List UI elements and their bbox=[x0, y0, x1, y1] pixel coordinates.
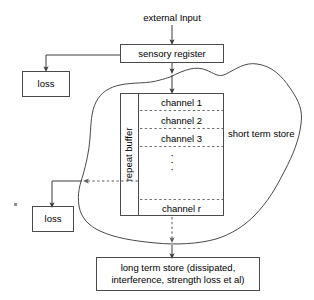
long-term-store-node[interactable]: long term store (dissipated, interferenc… bbox=[96, 257, 260, 291]
channel-row-3: channel 3 bbox=[140, 133, 223, 144]
long-term-store-label-line2: interference, strength loss et al) bbox=[111, 274, 244, 286]
sensory-register-node[interactable]: sensory register bbox=[120, 44, 224, 63]
long-term-store-label-line1: long term store (dissipated, bbox=[121, 262, 236, 274]
channel-row-2: channel 2 bbox=[140, 115, 223, 126]
edge-loss-bottom-elbow bbox=[52, 181, 82, 205]
channel-row-r: channel r bbox=[140, 203, 223, 214]
scan-artifact-mark bbox=[14, 203, 17, 206]
sensory-register-label: sensory register bbox=[138, 48, 206, 60]
short-term-store-label: short term store bbox=[228, 128, 295, 139]
channel-row-1: channel 1 bbox=[140, 97, 223, 108]
diagram-canvas: external Input sensory register loss los… bbox=[0, 0, 314, 300]
external-input-label: external Input bbox=[128, 12, 216, 23]
vertical-ellipsis: · · · bbox=[160, 152, 184, 173]
loss-bottom-label: loss bbox=[45, 213, 62, 225]
ellipsis-dot-3: · bbox=[160, 166, 184, 173]
edge-sensory-register-to-loss-top bbox=[46, 55, 120, 69]
loss-node-bottom[interactable]: loss bbox=[32, 206, 74, 232]
short-term-store-boundary bbox=[78, 64, 301, 244]
loss-top-label: loss bbox=[38, 78, 55, 90]
loss-node-top[interactable]: loss bbox=[22, 71, 70, 97]
